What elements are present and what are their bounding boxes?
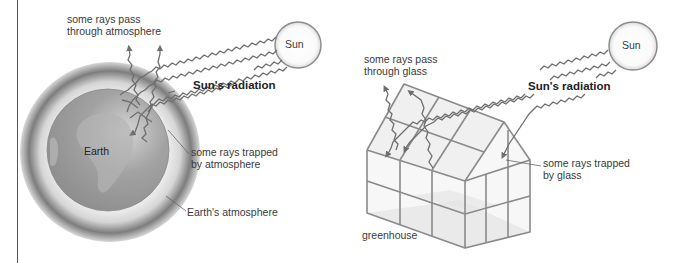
label-line: some rays trapped (191, 146, 278, 158)
label-sun-left: Sun (285, 38, 304, 50)
label-line: by atmosphere (191, 158, 278, 170)
label-earth: Earth (84, 145, 109, 157)
greenhouse-effect-diagram: some rays pass through atmosphere Sun Su… (0, 0, 678, 263)
diagram-artwork (0, 0, 678, 263)
label-rays-pass-glass: some rays pass through glass (364, 53, 438, 77)
label-rays-trapped-atmosphere: some rays trapped by atmosphere (191, 146, 278, 170)
label-sun-right: Sun (622, 39, 641, 51)
label-rays-pass-atmosphere: some rays pass through atmosphere (67, 13, 161, 37)
label-earths-atmosphere: Earth's atmosphere (187, 206, 278, 218)
greenhouse-structure (367, 84, 530, 248)
label-line: through glass (364, 65, 438, 77)
label-line: some rays trapped (543, 157, 630, 169)
label-greenhouse: greenhouse (362, 229, 417, 241)
label-line: through atmosphere (67, 25, 161, 37)
label-line: by glass (543, 169, 630, 181)
label-line: some rays pass (67, 13, 161, 25)
label-rays-trapped-glass: some rays trapped by glass (543, 157, 630, 181)
label-line: some rays pass (364, 53, 438, 65)
label-sun-radiation-right: Sun's radiation (528, 80, 611, 92)
label-sun-radiation-left: Sun's radiation (193, 79, 276, 91)
